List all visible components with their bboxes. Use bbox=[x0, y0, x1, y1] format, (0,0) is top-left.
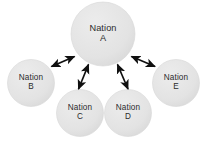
connector-a-d-arrow bbox=[118, 65, 129, 90]
diagram-svg bbox=[0, 0, 207, 144]
nation-d-circle[interactable] bbox=[105, 90, 152, 137]
nation-a-circle[interactable] bbox=[71, 2, 135, 66]
connector-a-e-arrow bbox=[132, 57, 156, 67]
nation-c-circle[interactable] bbox=[57, 90, 104, 137]
diagram-canvas: Nation A Nation B Nation C Nation D Nati… bbox=[0, 0, 207, 144]
connector-a-b-arrow bbox=[52, 57, 75, 67]
nation-e-circle[interactable] bbox=[153, 60, 200, 107]
node-circles bbox=[8, 2, 200, 137]
nation-b-circle[interactable] bbox=[8, 60, 55, 107]
connector-a-c-arrow bbox=[79, 65, 89, 90]
